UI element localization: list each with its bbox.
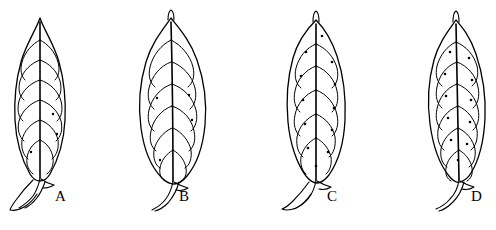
leaf-a-gland-3 [30, 151, 32, 153]
leaf-d-gland-6 [470, 99, 473, 102]
leaf-d-gland-11 [457, 159, 460, 162]
leaf-c-gland-11 [327, 151, 330, 154]
leaf-panel-d: D [372, 0, 496, 230]
leaf-d-label: D [471, 188, 482, 205]
leaf-c-drawing [248, 0, 372, 230]
leaf-c-gland-4 [300, 75, 303, 78]
leaf-d-gland-8 [469, 121, 472, 124]
leaf-b-gland-2 [156, 97, 158, 99]
leaf-b-gland-4 [159, 159, 161, 161]
leaf-d-gland-4 [471, 79, 474, 82]
leaf-panel-b: B [124, 0, 248, 230]
leaf-c-gland-12 [315, 165, 318, 168]
leaf-c-gland-5 [334, 83, 337, 86]
leaf-d-gland-3 [444, 73, 447, 76]
leaf-c-gland-1 [321, 35, 324, 38]
leaf-a-gland-2 [56, 133, 58, 135]
leaf-c-gland-10 [307, 147, 310, 150]
leaf-d-gland-1 [449, 51, 452, 54]
leaf-panel-a: A [0, 0, 124, 230]
leaf-comparison-figure: A [0, 0, 496, 230]
leaf-b-petiole [152, 181, 173, 210]
leaf-panel-c: C [248, 0, 372, 230]
leaf-b-label: B [179, 188, 190, 205]
leaf-d-gland-7 [447, 117, 450, 120]
leaf-c-gland-2 [305, 51, 308, 54]
leaf-a-gland-1 [52, 113, 54, 115]
leaf-b-gland-1 [188, 94, 190, 96]
leaf-d-gland-2 [468, 57, 471, 60]
leaf-d-gland-5 [445, 95, 448, 98]
leaf-b-gland-3 [191, 119, 193, 121]
leaf-c-gland-9 [331, 129, 334, 132]
leaf-c-label: C [327, 188, 338, 205]
leaf-d-petiole-2 [439, 182, 464, 211]
leaf-a-label: A [55, 188, 66, 205]
leaf-c-petiole [294, 180, 316, 209]
leaf-d-gland-9 [450, 139, 453, 142]
leaf-d-gland-10 [466, 143, 469, 146]
leaf-d-petiole [436, 180, 459, 209]
leaf-c-petiole-wing [282, 182, 311, 210]
leaf-c-gland-7 [333, 107, 336, 110]
leaf-c-gland-8 [304, 123, 307, 126]
leaf-c-gland-6 [302, 99, 305, 102]
leaf-c-gland-3 [331, 61, 334, 64]
